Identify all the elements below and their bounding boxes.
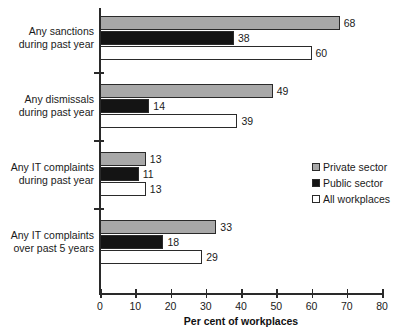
x-axis-tick-label: 70 (327, 301, 367, 312)
bar-value-label: 49 (277, 86, 289, 97)
bar-value-label: 11 (143, 169, 154, 180)
x-axis-tick-label: 10 (115, 301, 155, 312)
x-axis-tick (312, 289, 314, 298)
bar-public (100, 99, 149, 113)
bar-public (100, 167, 139, 181)
category-label-line: Any IT complaints (2, 229, 94, 242)
category-label-line: Any dismissals (2, 93, 94, 106)
bar-private (100, 220, 216, 234)
bar-value-label: 39 (241, 116, 253, 127)
category-label-line: over past 5 years (2, 242, 94, 255)
category-label: Any dismissalsduring past year (2, 93, 94, 118)
x-axis-tick-label: 40 (221, 301, 261, 312)
bar-public (100, 235, 163, 249)
bar-value-label: 13 (150, 154, 162, 165)
bar-all (100, 250, 202, 264)
x-axis-tick (276, 289, 278, 298)
x-axis-tick (382, 289, 384, 298)
legend-label: Public sector (323, 176, 383, 190)
bar-value-label: 68 (344, 18, 356, 29)
bar-value-label: 38 (238, 33, 250, 44)
category-label-line: during past year (2, 174, 94, 187)
x-axis-tick (135, 289, 137, 298)
legend-label: All workplaces (323, 192, 390, 206)
y-axis-group-tick (94, 72, 104, 74)
x-axis-tick (171, 289, 173, 298)
y-axis-group-tick (94, 140, 104, 142)
category-label: Any sanctionsduring past year (2, 25, 94, 50)
bar-value-label: 14 (153, 101, 165, 112)
legend-label: Private sector (323, 160, 387, 174)
bar-chart: 01020304050607080Per cent of workplacesA… (0, 0, 400, 332)
bar-value-label: 18 (167, 237, 179, 248)
bar-value-label: 60 (316, 48, 328, 59)
category-label-line: Any IT complaints (2, 161, 94, 174)
category-label-line: during past year (2, 38, 94, 51)
x-axis-tick-label: 60 (292, 301, 332, 312)
bar-value-label: 13 (150, 184, 162, 195)
x-axis-tick-label: 30 (186, 301, 226, 312)
x-axis-tick (100, 289, 102, 298)
category-label: Any IT complaintsover past 5 years (2, 229, 94, 254)
category-label-line: Any sanctions (2, 25, 94, 38)
legend-swatch-public (312, 179, 320, 187)
bar-value-label: 29 (206, 252, 218, 263)
category-label-line: during past year (2, 106, 94, 119)
x-axis-tick-label: 20 (151, 301, 191, 312)
x-axis-tick (241, 289, 243, 298)
x-axis-tick (347, 289, 349, 298)
y-axis-group-tick (94, 208, 104, 210)
bar-private (100, 152, 146, 166)
legend-swatch-private (312, 163, 320, 171)
bar-all (100, 114, 237, 128)
bar-public (100, 31, 234, 45)
x-axis-tick-label: 50 (256, 301, 296, 312)
legend-swatch-all (312, 195, 320, 203)
x-axis-tick-label: 0 (80, 301, 120, 312)
bar-all (100, 182, 146, 196)
x-axis-title: Per cent of workplaces (100, 315, 382, 327)
category-label: Any IT complaintsduring past year (2, 161, 94, 186)
x-axis-tick (206, 289, 208, 298)
x-axis-tick-label: 80 (362, 301, 400, 312)
bar-value-label: 33 (220, 222, 232, 233)
bar-private (100, 84, 273, 98)
bar-private (100, 16, 340, 30)
bar-all (100, 46, 312, 60)
